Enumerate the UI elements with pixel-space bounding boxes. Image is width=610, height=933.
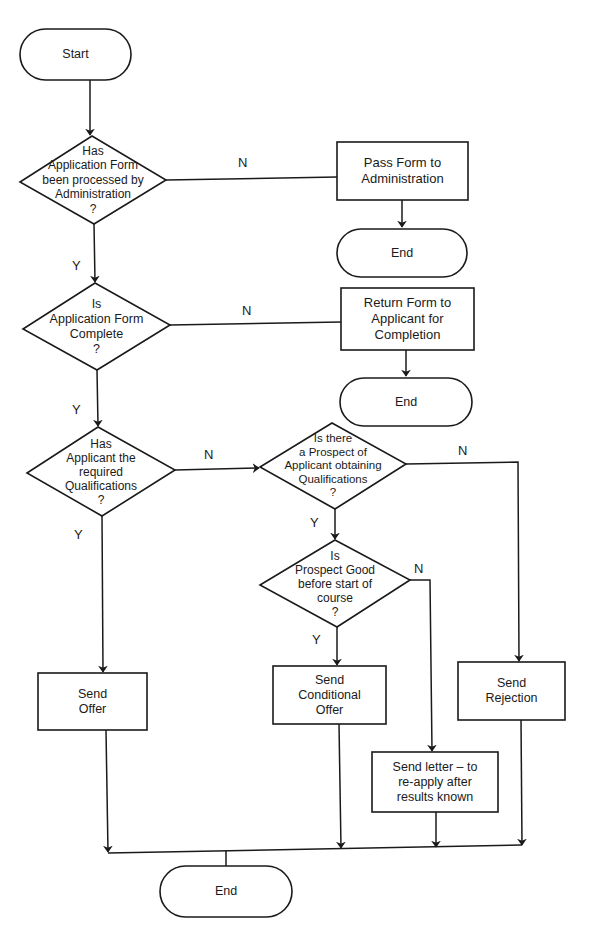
node-send-offer: Send Offer <box>38 673 147 730</box>
node-send-letter: Send letter – to re-apply after results … <box>372 752 498 812</box>
edge-conditional-to-merge <box>339 724 341 848</box>
edge-label-qualifications-no: N <box>204 447 213 462</box>
node-send-rejection: Send Rejection <box>458 662 565 720</box>
edge-label-prospect-yes: Y <box>310 515 319 530</box>
edge-qualifications-yes <box>102 516 103 672</box>
edge-label-prospect-no: N <box>458 443 467 458</box>
node-end-1: End <box>337 229 467 277</box>
edge-prospectgood-no <box>410 580 432 751</box>
node-start: Start <box>20 29 131 80</box>
edge-offer-to-merge <box>106 730 108 852</box>
edge-label-complete-yes: Y <box>72 402 81 417</box>
edge-label-qualifications-yes: Y <box>74 527 83 542</box>
node-prospect-decision: Is there a Prospect of Applicant obtaini… <box>260 423 406 509</box>
merge-line <box>108 845 522 853</box>
edge-label-prospectgood-no: N <box>414 561 423 576</box>
node-prospect-good-decision: Is Prospect Good before start of course … <box>260 540 410 627</box>
edge-qualifications-no <box>175 468 259 470</box>
node-end-3: End <box>160 866 292 917</box>
node-processed-decision: Has Application Form been processed by A… <box>20 136 166 224</box>
node-complete-decision: Is Application Form Complete ? <box>23 283 170 370</box>
edge-complete-no <box>170 322 341 325</box>
edge-label-processed-yes: Y <box>72 258 81 273</box>
edge-label-complete-no: N <box>242 303 251 318</box>
node-end-2: End <box>340 378 472 426</box>
edge-complete-yes <box>97 370 98 426</box>
node-qualifications-decision: Has Applicant the required Qualification… <box>27 427 175 516</box>
edge-processed-no <box>166 177 337 180</box>
edge-rejection-to-merge <box>521 720 522 845</box>
node-return-form: Return Form to Applicant for Completion <box>341 288 474 350</box>
edge-label-prospectgood-yes: Y <box>312 632 321 647</box>
edge-label-processed-no: N <box>238 155 247 170</box>
node-send-conditional-offer: Send Conditional Offer <box>273 666 386 724</box>
node-pass-form: Pass Form to Administration <box>337 142 468 200</box>
edge-processed-yes <box>94 224 95 282</box>
